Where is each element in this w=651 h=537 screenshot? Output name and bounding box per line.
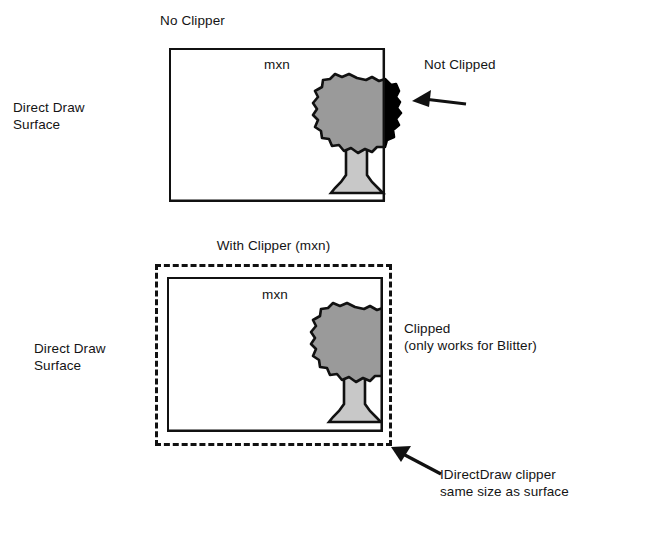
clipper-note-line1: IDirectDraw clipper [440, 467, 556, 482]
mxn-label-top: mxn [169, 56, 385, 73]
direct-draw-surface-label-top: Direct Draw Surface [13, 99, 85, 133]
not-clipped-callout: Not Clipped [424, 56, 496, 73]
clipped-callout: Clipped(only works for Blitter) [404, 320, 537, 354]
mxn-label-bottom: mxn [167, 286, 383, 303]
clipper-note-line2: same size as surface [440, 484, 569, 499]
diagram-canvas: No Clipper Direct Draw Surface mxn Not C… [0, 0, 651, 537]
direct-draw-surface-label-bottom: Direct Draw Surface [34, 340, 106, 374]
clipped-callout-line2: (only works for Blitter) [404, 338, 537, 353]
clipped-callout-line1: Clipped [404, 321, 450, 336]
clipper-note-arrow [391, 446, 441, 474]
no-clipper-title: No Clipper [0, 12, 385, 29]
with-clipper-title: With Clipper (mxn) [155, 237, 392, 254]
not-clipped-arrow [412, 90, 466, 107]
clipper-note: IDirectDraw clippersame size as surface [440, 466, 569, 500]
